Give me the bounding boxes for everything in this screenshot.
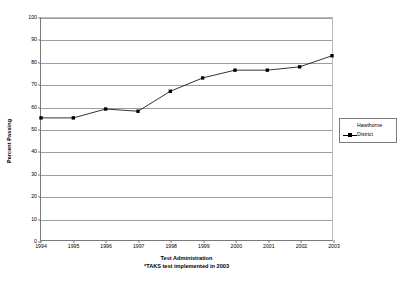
y-tick-label: 30: [31, 172, 37, 177]
series-plot: [41, 18, 332, 240]
chart-container: Percent Passing 0102030405060708090100 1…: [0, 0, 405, 282]
y-tick-label: 40: [31, 150, 37, 155]
data-point-marker: [39, 116, 42, 119]
legend-item[interactable]: Hawthorne: [343, 121, 393, 130]
data-point-marker: [233, 68, 236, 71]
data-point-marker: [266, 68, 269, 71]
plot-area: 0102030405060708090100 19941995199619971…: [40, 17, 333, 241]
x-tick-label: 2000: [231, 244, 243, 249]
y-tick-label: 50: [31, 127, 37, 132]
data-point-marker: [298, 65, 301, 68]
data-point-marker: [201, 76, 204, 79]
legend-item-label: Hawthorne: [357, 121, 382, 130]
chart-legend: HawthorneDistrict: [339, 118, 397, 143]
legend-key-empty: [343, 121, 357, 130]
x-tick-label: 1997: [133, 244, 145, 249]
x-tick-label: 1999: [198, 244, 210, 249]
y-tick-label: 80: [31, 60, 37, 65]
legend-item-label: District: [357, 130, 373, 139]
x-tick-label: 1994: [35, 244, 47, 249]
x-axis-footnote: *TAKS test implemented in 2003: [40, 263, 333, 270]
legend-item[interactable]: District: [343, 130, 393, 139]
data-point-marker: [330, 54, 333, 57]
data-point-marker: [104, 107, 107, 110]
y-tick-label: 70: [31, 83, 37, 88]
x-tick-label: 2003: [328, 244, 340, 249]
y-tick-label: 100: [28, 15, 37, 20]
data-point-marker: [72, 116, 75, 119]
y-tick-label: 20: [31, 195, 37, 200]
series-line: [41, 56, 332, 118]
data-point-marker: [136, 110, 139, 113]
x-tick-label: 1996: [100, 244, 112, 249]
y-axis-title: Percent Passing: [6, 119, 12, 163]
x-tick-label: 1995: [68, 244, 80, 249]
x-tick-label: 2001: [263, 244, 275, 249]
y-tick-label: 60: [31, 105, 37, 110]
y-tick-label: 90: [31, 38, 37, 43]
data-point-marker: [169, 90, 172, 93]
y-tick-label: 10: [31, 217, 37, 222]
x-tick-label: 2002: [296, 244, 308, 249]
x-tick-label: 1998: [165, 244, 177, 249]
x-axis-title: Test Administration: [40, 255, 333, 262]
legend-marker-icon: [343, 130, 357, 139]
